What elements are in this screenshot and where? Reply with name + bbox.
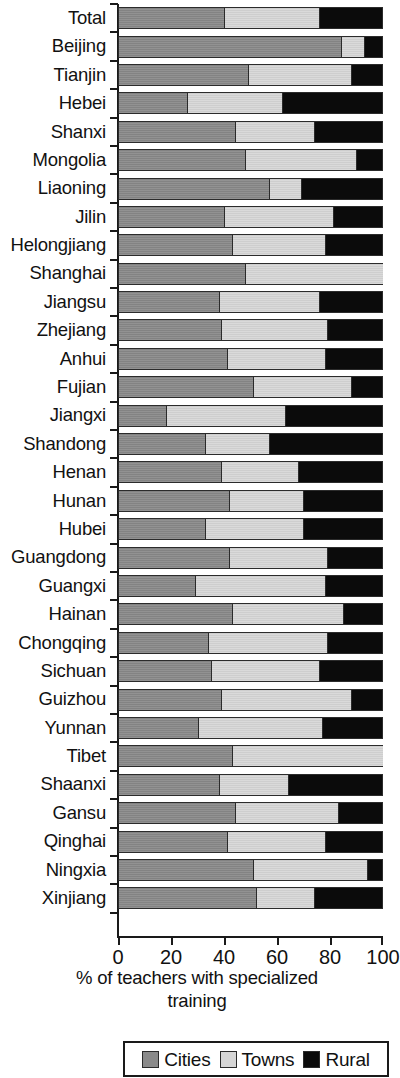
bar-rows: TotalBeijingTianjinHebeiShanxiMongoliaLi…: [0, 4, 394, 913]
legend-item: Cities: [142, 1050, 210, 1069]
bar-row-label: Mongolia: [0, 151, 112, 170]
y-axis-tick: [110, 855, 118, 857]
bar-row-label: Jiangsu: [0, 293, 112, 312]
y-axis-tick: [110, 457, 118, 459]
bar-track: [118, 92, 383, 114]
bar-segment-towns: [221, 689, 351, 711]
bar-segment-towns: [221, 461, 298, 483]
bar-segment-rural: [282, 92, 383, 114]
bar-row: Guangxi: [0, 572, 394, 600]
bar-row-label: Qinghai: [0, 832, 112, 851]
bar-segment-towns: [269, 178, 301, 200]
bar-segment-rural: [338, 802, 383, 824]
y-axis-tick: [110, 429, 118, 431]
bar-segment-towns: [229, 547, 327, 569]
bar-row-label: Hainan: [0, 605, 112, 624]
bar-track: [118, 7, 383, 29]
bar-track: [118, 64, 383, 86]
bar-row-label: Hunan: [0, 492, 112, 511]
bar-segment-towns: [235, 121, 315, 143]
x-axis-tick: [381, 938, 383, 945]
y-axis-tick: [110, 713, 118, 715]
y-axis-tick: [110, 912, 118, 914]
bar-segment-rural: [301, 178, 383, 200]
bar-segment-cities: [118, 206, 224, 228]
x-axis-tick-label: 20: [160, 947, 182, 967]
bar-segment-towns: [341, 36, 365, 58]
bar-segment-cities: [118, 178, 269, 200]
y-axis-tick: [110, 770, 118, 772]
bar-segment-towns: [187, 92, 282, 114]
bar-track: [118, 660, 383, 682]
bar-row: Tianjin: [0, 61, 394, 89]
bar-segment-cities: [118, 92, 187, 114]
bar-segment-cities: [118, 603, 232, 625]
bar-segment-towns: [211, 660, 320, 682]
legend-label: Towns: [242, 1050, 295, 1069]
bar-segment-rural: [303, 518, 383, 540]
bar-segment-cities: [118, 575, 195, 597]
bar-row: Henan: [0, 458, 394, 486]
x-axis-line: [118, 936, 383, 938]
x-axis-title-line2: training: [0, 990, 394, 1013]
bar-segment-towns: [205, 433, 269, 455]
bar-segment-rural: [319, 7, 383, 29]
bar-segment-cities: [118, 745, 232, 767]
x-axis-tick-label: 0: [112, 947, 123, 967]
legend-label: Rural: [325, 1050, 369, 1069]
bar-track: [118, 461, 383, 483]
bar-segment-cities: [118, 717, 198, 739]
bar-segment-cities: [118, 490, 229, 512]
legend-item: Rural: [303, 1050, 369, 1069]
bar-segment-towns: [235, 802, 338, 824]
bar-track: [118, 603, 383, 625]
bar-segment-towns: [232, 603, 343, 625]
bar-segment-cities: [118, 774, 219, 796]
y-axis-tick: [110, 543, 118, 545]
bar-row-label: Beijing: [0, 37, 112, 56]
bar-segment-rural: [319, 660, 383, 682]
bar-track: [118, 234, 383, 256]
bar-segment-cities: [118, 831, 227, 853]
bar-segment-rural: [325, 348, 383, 370]
legend-swatch-towns: [220, 1051, 237, 1068]
bar-row-label: Helongjiang: [0, 236, 112, 255]
bar-row: Qinghai: [0, 827, 394, 855]
bar-row-label: Guangdong: [0, 548, 112, 567]
y-axis-tick: [110, 401, 118, 403]
bar-segment-rural: [325, 234, 383, 256]
bar-segment-rural: [333, 206, 383, 228]
bar-row: Sichuan: [0, 657, 394, 685]
bar-row: Helongjiang: [0, 231, 394, 259]
bar-segment-cities: [118, 689, 221, 711]
bar-track: [118, 206, 383, 228]
y-axis-tick: [110, 883, 118, 885]
y-axis-tick: [110, 827, 118, 829]
bar-row-label: Liaoning: [0, 179, 112, 198]
bar-segment-cities: [118, 660, 211, 682]
bar-row: Hunan: [0, 487, 394, 515]
legend-item: Towns: [220, 1050, 295, 1069]
bar-segment-rural: [343, 603, 383, 625]
bar-segment-cities: [118, 36, 341, 58]
bar-row-label: Xinjiang: [0, 889, 112, 908]
bar-row: Fujian: [0, 373, 394, 401]
bar-segment-towns: [229, 490, 303, 512]
y-axis-tick: [110, 88, 118, 90]
bar-segment-towns: [227, 348, 325, 370]
y-axis-tick: [110, 628, 118, 630]
y-axis-tick: [110, 315, 118, 317]
y-axis-tick: [110, 514, 118, 516]
x-axis-tick-label: 60: [266, 947, 288, 967]
x-axis-tick: [224, 938, 226, 945]
bar-segment-towns: [253, 859, 367, 881]
y-axis-tick: [110, 798, 118, 800]
x-axis-title-line1: % of teachers with specialized: [76, 967, 318, 988]
bar-segment-cities: [118, 121, 235, 143]
bar-segment-rural: [314, 121, 383, 143]
bar-segment-cities: [118, 376, 253, 398]
bar-segment-rural: [351, 376, 383, 398]
bar-row-label: Fujian: [0, 378, 112, 397]
bar-segment-rural: [327, 319, 383, 341]
